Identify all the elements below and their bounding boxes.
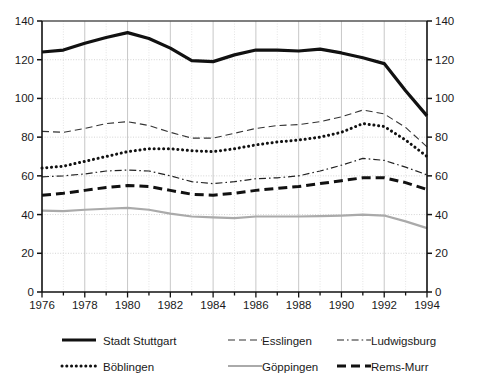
y-axis-tick-label-right: 80 bbox=[435, 131, 448, 143]
x-axis-tick-label: 1984 bbox=[200, 299, 226, 311]
x-axis-tick-label: 1990 bbox=[329, 299, 355, 311]
x-axis-tick-label: 1982 bbox=[158, 299, 184, 311]
y-axis-tick-label-left: 0 bbox=[28, 286, 34, 298]
legend-label-esslingen: Esslingen bbox=[262, 335, 312, 347]
y-axis-tick-label-left: 100 bbox=[15, 92, 34, 104]
x-axis-tick-label: 1980 bbox=[115, 299, 141, 311]
x-axis-tick-label: 1988 bbox=[286, 299, 312, 311]
grid-lines bbox=[42, 21, 427, 292]
line-chart: 0020204040606080801001001201201401401976… bbox=[0, 0, 502, 377]
y-axis-tick-label-right: 60 bbox=[435, 170, 448, 182]
y-axis-tick-label-right: 20 bbox=[435, 247, 448, 259]
legend-label-b-blingen: Böblingen bbox=[103, 361, 154, 373]
legend: Stadt StuttgartEsslingenLudwigsburgBöbli… bbox=[62, 335, 436, 373]
y-axis-tick-label-right: 140 bbox=[435, 15, 454, 27]
y-axis-tick-label-right: 0 bbox=[435, 286, 441, 298]
legend-label-g-ppingen: Göppingen bbox=[262, 361, 318, 373]
y-axis-tick-label-right: 40 bbox=[435, 209, 448, 221]
x-axis-tick-label: 1992 bbox=[371, 299, 397, 311]
y-axis-tick-label-left: 140 bbox=[15, 15, 34, 27]
y-axis-tick-label-right: 100 bbox=[435, 92, 454, 104]
legend-label-stadt-stuttgart: Stadt Stuttgart bbox=[103, 335, 177, 347]
legend-label-ludwigsburg: Ludwigsburg bbox=[371, 335, 436, 347]
y-axis-tick-label-left: 80 bbox=[21, 131, 34, 143]
legend-label-rems-murr: Rems-Murr bbox=[371, 361, 429, 373]
x-axis-tick-label: 1976 bbox=[29, 299, 55, 311]
y-axis-tick-label-left: 40 bbox=[21, 209, 34, 221]
x-axis-tick-label: 1978 bbox=[72, 299, 98, 311]
y-axis-tick-label-left: 60 bbox=[21, 170, 34, 182]
x-axis-tick-label: 1994 bbox=[414, 299, 440, 311]
x-axis-tick-label: 1986 bbox=[243, 299, 269, 311]
y-axis-tick-label-left: 120 bbox=[15, 54, 34, 66]
y-axis-tick-label-right: 120 bbox=[435, 54, 454, 66]
y-axis-tick-label-left: 20 bbox=[21, 247, 34, 259]
chart-figure: 0020204040606080801001001201201401401976… bbox=[0, 0, 502, 377]
